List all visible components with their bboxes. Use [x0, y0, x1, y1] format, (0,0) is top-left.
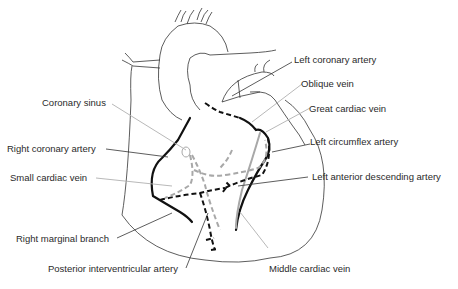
label-left-circumflex-artery: Left circumflex artery — [310, 136, 398, 147]
right-coronary-artery-vessel — [152, 118, 192, 222]
label-great-cardiac-vein: Great cardiac vein — [309, 103, 386, 114]
label-posterior-interventricular-artery: Posterior interventricular artery — [48, 263, 178, 274]
label-small-cardiac-vein: Small cardiac vein — [10, 172, 87, 183]
leader-lines — [96, 62, 310, 268]
label-middle-cardiac-vein: Middle cardiac vein — [269, 263, 350, 274]
vessels — [152, 103, 270, 250]
label-coronary-sinus: Coronary sinus — [42, 97, 106, 108]
label-right-coronary-artery: Right coronary artery — [7, 143, 96, 154]
label-left-anterior-descending-artery: Left anterior descending artery — [312, 171, 441, 182]
heart-outline — [122, 8, 324, 262]
label-oblique-vein: Oblique vein — [301, 78, 354, 89]
label-left-coronary-artery: Left coronary artery — [294, 54, 377, 65]
label-right-marginal-branch: Right marginal branch — [16, 233, 109, 244]
coronary-vessels-diagram: Left coronary artery Oblique vein Great … — [0, 0, 458, 289]
